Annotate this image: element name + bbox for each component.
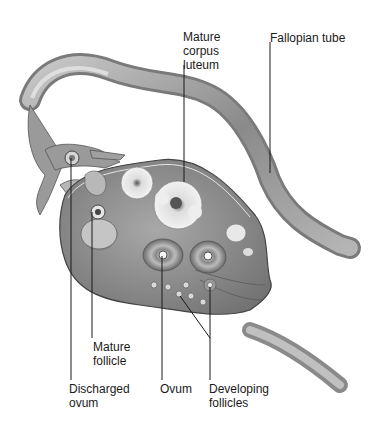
label-fallopian-tube: Fallopian tube (270, 31, 345, 45)
label-ovum: Ovum (160, 382, 192, 396)
follicle-large-2 (190, 241, 226, 273)
follicle-large-1 (143, 239, 183, 271)
ovary-diagram: Mature corpus luteum Fallopian tube Matu… (0, 0, 377, 423)
corpus-luteum-small (121, 167, 153, 199)
discharged-ovum (65, 151, 79, 165)
label-mature-corpus-luteum: Mature corpus luteum (183, 30, 220, 72)
label-mature-follicle: Mature follicle (93, 340, 130, 368)
corpus-luteum-mature (154, 181, 202, 229)
label-developing-follicles: Developing follicles (209, 382, 269, 410)
label-discharged-ovum: Discharged ovum (69, 382, 130, 410)
